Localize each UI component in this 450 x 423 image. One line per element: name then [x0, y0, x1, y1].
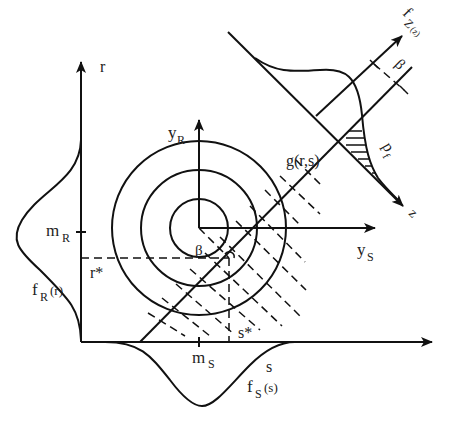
svg-text:(s): (s) — [264, 380, 278, 395]
svg-text:(r): (r) — [50, 283, 63, 298]
svg-text:R: R — [62, 231, 70, 245]
r-axis-label: r — [100, 58, 106, 75]
reliability-diagram: r s m R m S f R (r) f S (s) y R y S — [0, 0, 450, 423]
svg-text:S: S — [367, 250, 374, 264]
s-star-label: s* — [238, 324, 252, 341]
svg-text:m: m — [192, 348, 205, 367]
svg-text:f: f — [32, 280, 38, 299]
mS-label: m S — [192, 348, 215, 371]
fZ-label: f Z (z) — [396, 4, 431, 39]
svg-text:y: y — [357, 240, 366, 259]
svg-text:S: S — [208, 357, 215, 371]
s-axis-label: s — [266, 358, 272, 375]
svg-text:f: f — [247, 377, 253, 396]
mR-label: m R — [46, 221, 70, 245]
beta-label-offset: β — [392, 56, 409, 73]
yR-label: y R — [168, 123, 185, 147]
svg-text:y: y — [168, 123, 177, 142]
r-star-label: r* — [90, 264, 103, 281]
fZ-axis — [316, 36, 402, 116]
svg-text:R: R — [40, 290, 48, 304]
beta-label-center: β — [195, 242, 203, 258]
svg-text:f: f — [380, 151, 392, 160]
svg-text:S: S — [255, 387, 262, 401]
svg-text:m: m — [46, 221, 59, 240]
fR-label: f R (r) — [32, 280, 63, 304]
pf-label: p f — [376, 139, 401, 161]
limit-state-label: g(r,s) — [286, 152, 320, 170]
z-axis-label: z — [406, 206, 421, 221]
pf-tail-hatching — [346, 131, 376, 173]
fS-label: f S (s) — [247, 377, 278, 401]
failure-region-hatching — [148, 160, 322, 336]
fR-density-curve — [16, 140, 81, 340]
svg-text:R: R — [177, 133, 185, 147]
yS-label: y S — [357, 240, 374, 264]
